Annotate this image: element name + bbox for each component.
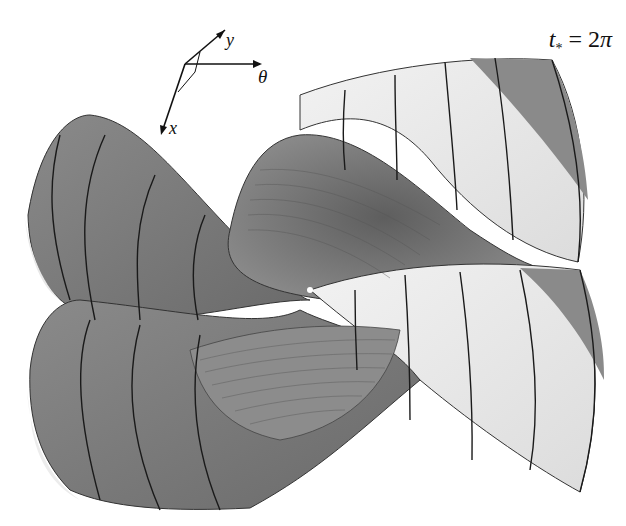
time-label: t* = 2π	[549, 26, 612, 57]
y-axis-label: y	[226, 30, 234, 51]
theta-axis-label: θ	[258, 66, 267, 88]
twisted-surface-plot	[0, 0, 626, 526]
x-axis-label: x	[169, 118, 177, 139]
figure: y θ x t* = 2π	[0, 0, 626, 526]
